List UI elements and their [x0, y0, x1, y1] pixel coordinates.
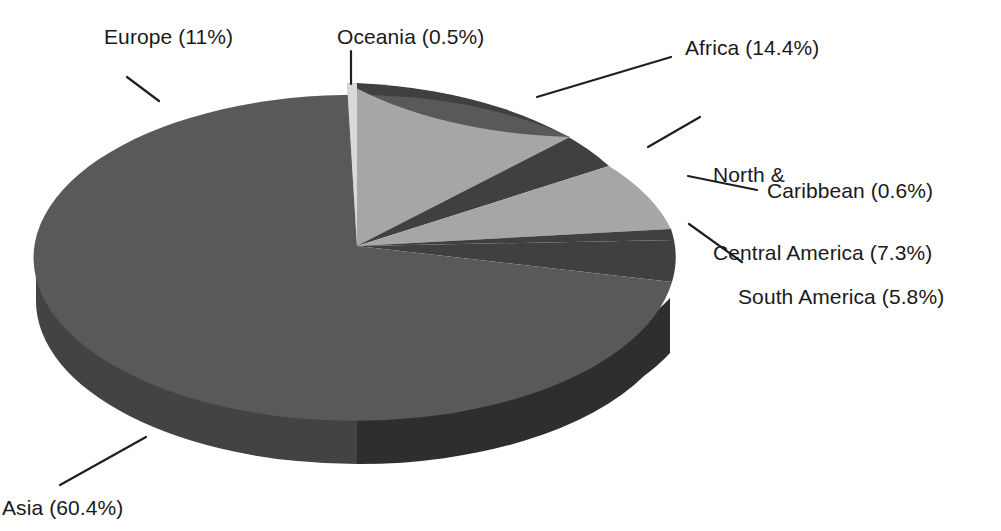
pie-label-caribbean: Caribbean (0.6%) [767, 178, 933, 204]
pie-label-africa: Africa (14.4%) [685, 35, 819, 61]
pie-label-south-america: South America (5.8%) [738, 284, 944, 310]
leader-line-north-america [648, 117, 700, 147]
pie-label-oceania: Oceania (0.5%) [337, 24, 484, 50]
pie-chart-figure: Europe (11%) Oceania (0.5%) Africa (14.4… [0, 0, 1001, 531]
leader-line-africa [537, 57, 671, 97]
pie-label-europe: Europe (11%) [104, 24, 233, 50]
leader-line-asia [60, 437, 146, 485]
leader-line-europe [127, 77, 159, 101]
pie-label-north-central-america-line2: Central America (7.3%) [713, 240, 932, 266]
pie-top-slices [34, 83, 676, 421]
pie-label-asia: Asia (60.4%) [2, 495, 123, 521]
